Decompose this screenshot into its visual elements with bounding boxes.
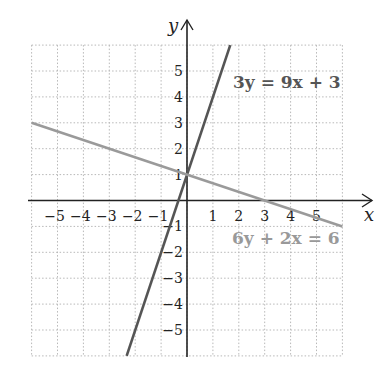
- x-tick-label: 3: [260, 208, 269, 224]
- axes: x y: [28, 15, 374, 357]
- y-tick-label: 4: [174, 89, 183, 105]
- y-tick-label: 1: [174, 167, 183, 183]
- y-tick-label: 5: [174, 63, 183, 79]
- y-axis-label: y: [167, 15, 179, 36]
- equation-label-1: 3y = 9x + 3: [233, 72, 341, 92]
- y-tick-label: −5: [162, 322, 183, 338]
- x-tick-label: 2: [234, 208, 243, 224]
- y-tick-label: −3: [162, 270, 183, 286]
- x-tick-label: 1: [208, 208, 217, 224]
- y-tick-label: −4: [162, 296, 183, 312]
- x-tick-label: −3: [96, 208, 117, 224]
- coordinate-plane: x y −5−4−3−2−11234554321−1−2−3−4−5 3y = …: [0, 0, 388, 372]
- x-tick-label: −5: [44, 208, 65, 224]
- x-axis-label: x: [364, 204, 374, 225]
- x-tick-label: −4: [70, 208, 91, 224]
- x-tick-label: −2: [122, 208, 143, 224]
- y-tick-label: 3: [174, 115, 183, 131]
- y-tick-label: 2: [174, 141, 183, 157]
- equation-label-2: 6y + 2x = 6: [232, 228, 340, 248]
- y-tick-label: −2: [162, 244, 183, 260]
